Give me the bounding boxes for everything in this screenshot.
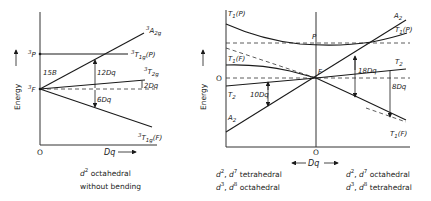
right-origin: O — [313, 148, 319, 157]
right-term-t2-left: T2 — [228, 91, 236, 100]
right-caption-right-line1: d2, d7 octahedral — [346, 168, 410, 179]
level-3p-label: 3P — [28, 49, 37, 59]
tanabe-sugano-diagrams: Energy 3P 3F 15B 3T1g(P) 3A2g 3T2g 3T1g(… — [0, 0, 431, 201]
right-dq-label: Dq — [308, 159, 319, 168]
term-3t1g-f: 3T1g(F) — [138, 132, 163, 144]
gap-10dq: 10Dq — [250, 91, 269, 99]
left-caption-line2: without bending — [80, 182, 141, 191]
right-energy-label: Energy — [199, 83, 208, 110]
left-energy-label: Energy — [13, 83, 22, 110]
right-term-t1p-left: T1(P) — [228, 10, 246, 19]
right-term-t1f-right: T1(F) — [390, 130, 408, 139]
right-term-a2-left: A2 — [227, 114, 237, 123]
left-caption-line1: d2 octahedral — [80, 167, 131, 178]
right-panel: Energy O T1(P) P T1(P) T1(F) T2 A2 A2 F … — [199, 10, 413, 192]
line-3t2g — [40, 80, 145, 89]
left-panel: Energy 3P 3F 15B 3T1g(P) 3A2g 3T2g 3T1g(… — [13, 12, 163, 191]
term-3a2g: 3A2g — [146, 25, 162, 37]
right-zero-label: O — [216, 74, 222, 83]
gap-8dq: 8Dq — [392, 83, 407, 91]
term-3t2g: 3T2g — [144, 66, 159, 78]
gap-18dq: 18Dq — [358, 67, 377, 75]
curve-t1f-left — [226, 65, 316, 78]
gap-12dq: 12Dq — [97, 69, 116, 77]
right-term-t2-right: T2 — [395, 58, 403, 67]
term-3t1g-p: 3T1g(P) — [131, 49, 156, 61]
level-3f-label: 3F — [28, 84, 37, 94]
gap-2dq: 2Dq — [144, 82, 159, 90]
right-caption-left-line2: d3, d8 octahedral — [216, 181, 280, 192]
left-dq-label: Dq — [104, 148, 115, 157]
line-3a2g — [40, 33, 144, 89]
gap-15b: 15B — [43, 69, 57, 77]
right-caption-left-line1: d2, d7 tetrahedral — [216, 168, 282, 179]
right-term-t1f-left: T1(F) — [228, 55, 246, 64]
right-caption-right-line2: d3, d8 tetrahedral — [346, 181, 412, 192]
right-term-t1p-right: T1(P) — [395, 26, 413, 35]
right-term-a2-right: A2 — [393, 12, 403, 21]
line-3t1g-f — [40, 89, 152, 127]
left-origin: O — [37, 148, 43, 157]
gap-6dq: 6Dq — [97, 96, 112, 104]
dashed-t1f-diverge — [226, 48, 316, 78]
